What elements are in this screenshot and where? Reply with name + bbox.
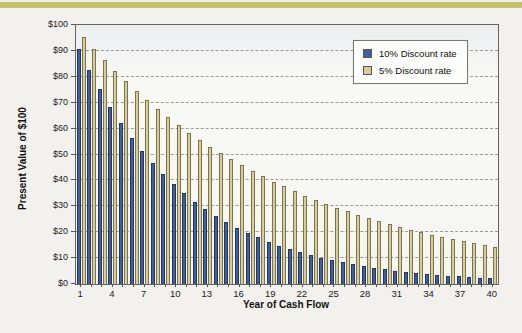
bar-10%-year-30 <box>383 269 387 284</box>
bar-5%-year-30 <box>388 224 392 284</box>
x-tick-year-26 <box>344 284 345 287</box>
y-tick-90 <box>71 50 75 51</box>
bar-5%-year-34 <box>430 235 434 284</box>
bar-10%-year-33 <box>414 273 418 284</box>
bar-10%-year-3 <box>98 89 102 284</box>
y-tick-label-70: $70 <box>34 97 68 107</box>
x-tick-year-17 <box>249 284 250 287</box>
x-tick-label-year-22: 22 <box>291 288 313 299</box>
bar-5%-year-23 <box>314 200 318 284</box>
bar-10%-year-35 <box>435 275 439 284</box>
x-tick-year-15 <box>228 284 229 287</box>
bar-5%-year-10 <box>177 125 181 284</box>
legend-item-10pct: 10% Discount rate <box>363 48 457 59</box>
legend-swatch-5pct <box>363 66 372 75</box>
bar-5%-year-40 <box>493 247 497 284</box>
bar-5%-year-4 <box>113 71 117 284</box>
bar-10%-year-20 <box>277 246 281 285</box>
bar-10%-year-24 <box>319 258 323 284</box>
bar-5%-year-8 <box>156 109 160 284</box>
bar-10%-year-13 <box>203 209 207 284</box>
bar-5%-year-11 <box>187 133 191 284</box>
bar-10%-year-5 <box>119 123 123 284</box>
x-tick-label-year-7: 7 <box>133 288 155 299</box>
bar-5%-year-2 <box>92 49 96 284</box>
bar-10%-year-16 <box>235 228 239 284</box>
bar-10%-year-8 <box>151 163 155 284</box>
bar-5%-year-12 <box>198 140 202 284</box>
bar-5%-year-24 <box>324 204 328 284</box>
bar-10%-year-4 <box>108 107 112 284</box>
bar-10%-year-26 <box>341 262 345 284</box>
bar-10%-year-7 <box>140 151 144 284</box>
x-tick-year-35 <box>439 284 440 287</box>
y-tick-0 <box>71 283 75 284</box>
x-tick-year-34 <box>428 284 429 287</box>
bar-10%-year-32 <box>404 272 408 284</box>
y-tick-80 <box>71 76 75 77</box>
bar-5%-year-32 <box>409 230 413 284</box>
x-tick-year-27 <box>355 284 356 287</box>
bar-10%-year-9 <box>161 174 165 284</box>
bar-10%-year-38 <box>467 277 471 284</box>
x-tick-year-3 <box>101 284 102 287</box>
x-axis-title: Year of Cash Flow <box>186 299 386 310</box>
x-tick-year-39 <box>481 284 482 287</box>
scanned-chart-page: Present Value of $100 10% Discount rate5… <box>0 0 522 333</box>
bar-10%-year-21 <box>288 249 292 284</box>
bar-5%-year-17 <box>251 171 255 284</box>
bar-10%-year-27 <box>351 264 355 284</box>
bar-10%-year-29 <box>372 268 376 284</box>
x-tick-year-40 <box>492 284 493 287</box>
x-tick-year-13 <box>207 284 208 287</box>
x-tick-year-31 <box>397 284 398 287</box>
x-tick-year-24 <box>323 284 324 287</box>
x-tick-year-36 <box>450 284 451 287</box>
x-tick-label-year-10: 10 <box>164 288 186 299</box>
bar-5%-year-25 <box>335 208 339 285</box>
bar-10%-year-10 <box>172 184 176 284</box>
x-tick-year-19 <box>270 284 271 287</box>
x-tick-year-16 <box>239 284 240 287</box>
x-tick-year-2 <box>91 284 92 287</box>
legend-label-10pct: 10% Discount rate <box>379 48 457 59</box>
bar-5%-year-16 <box>240 165 244 284</box>
y-tick-50 <box>71 154 75 155</box>
bar-5%-year-21 <box>293 191 297 284</box>
bar-5%-year-14 <box>219 153 223 284</box>
bar-5%-year-7 <box>145 100 149 284</box>
y-tick-label-20: $20 <box>34 226 68 236</box>
x-tick-year-29 <box>376 284 377 287</box>
bar-10%-year-23 <box>309 255 313 284</box>
bar-5%-year-13 <box>208 147 212 284</box>
x-tick-year-23 <box>312 284 313 287</box>
bar-10%-year-15 <box>224 222 228 284</box>
bar-10%-year-2 <box>87 70 91 284</box>
bar-10%-year-1 <box>77 49 81 285</box>
bar-5%-year-3 <box>103 60 107 284</box>
y-tick-label-40: $40 <box>34 174 68 184</box>
y-tick-70 <box>71 102 75 103</box>
x-tick-year-6 <box>133 284 134 287</box>
bar-5%-year-38 <box>472 243 476 284</box>
x-tick-year-18 <box>260 284 261 287</box>
bar-5%-year-35 <box>440 237 444 284</box>
bar-10%-year-34 <box>425 274 429 284</box>
legend-label-5pct: 5% Discount rate <box>379 65 451 76</box>
x-tick-year-12 <box>196 284 197 287</box>
bar-10%-year-17 <box>246 233 250 284</box>
bar-5%-year-33 <box>419 232 423 284</box>
x-tick-label-year-28: 28 <box>354 288 376 299</box>
bar-10%-year-11 <box>182 193 186 284</box>
bar-10%-year-18 <box>256 237 260 284</box>
x-tick-year-21 <box>291 284 292 287</box>
bar-10%-year-6 <box>130 138 134 284</box>
bar-5%-year-9 <box>166 117 170 284</box>
bar-10%-year-28 <box>362 266 366 284</box>
x-tick-year-30 <box>386 284 387 287</box>
x-tick-label-year-13: 13 <box>196 288 218 299</box>
y-axis-title: Present Value of $100 <box>17 94 28 224</box>
x-tick-label-year-31: 31 <box>386 288 408 299</box>
legend-swatch-10pct <box>363 49 372 58</box>
x-tick-label-year-19: 19 <box>259 288 281 299</box>
